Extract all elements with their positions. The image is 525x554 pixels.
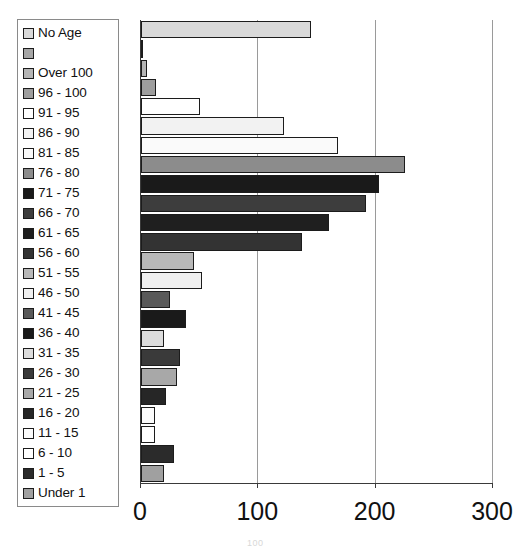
legend-item-label: 61 - 65 [38, 223, 79, 243]
legend-item[interactable]: 26 - 30 [23, 363, 115, 383]
legend-item[interactable]: 36 - 40 [23, 323, 115, 343]
legend-item[interactable]: 51 - 55 [23, 263, 115, 283]
bar[interactable] [141, 291, 170, 308]
legend-item-label: 1 - 5 [38, 463, 65, 483]
bar[interactable] [141, 233, 302, 250]
legend-item[interactable]: 6 - 10 [23, 443, 115, 463]
bar[interactable] [141, 368, 177, 385]
legend-swatch-icon [23, 408, 34, 419]
legend-item-label: 31 - 35 [38, 343, 79, 363]
legend-item-label: 96 - 100 [38, 83, 87, 103]
bar[interactable] [141, 272, 202, 289]
legend-swatch-icon [23, 468, 34, 479]
legend-item-label: 36 - 40 [38, 323, 79, 343]
bar-series [140, 20, 492, 483]
legend-item[interactable]: 61 - 65 [23, 223, 115, 243]
legend-swatch-icon [23, 248, 34, 259]
bar[interactable] [141, 156, 405, 173]
legend-item[interactable]: Over 100 [23, 63, 115, 83]
legend-item[interactable]: 11 - 15 [23, 423, 115, 443]
bar[interactable] [141, 117, 284, 134]
legend-swatch-icon [23, 108, 34, 119]
bar[interactable] [141, 195, 366, 212]
bar[interactable] [141, 426, 155, 443]
bar-chart: No AgeOver 10096 - 10091 - 9586 - 9081 -… [0, 0, 525, 554]
legend-item[interactable]: 66 - 70 [23, 203, 115, 223]
legend-item[interactable]: 41 - 45 [23, 303, 115, 323]
bar[interactable] [141, 310, 186, 327]
legend-item[interactable]: 86 - 90 [23, 123, 115, 143]
legend-item[interactable]: 16 - 20 [23, 403, 115, 423]
legend-swatch-icon [23, 388, 34, 399]
legend-item[interactable]: 1 - 5 [23, 463, 115, 483]
plot-area [140, 20, 492, 483]
legend-swatch-icon [23, 188, 34, 199]
legend-item[interactable]: 96 - 100 [23, 83, 115, 103]
bar[interactable] [141, 60, 147, 77]
x-axis-tick-label: 100 [236, 497, 278, 526]
bar[interactable] [141, 79, 156, 96]
legend-item-label: 51 - 55 [38, 263, 79, 283]
bar[interactable] [141, 175, 379, 192]
x-axis-tick-label: 300 [471, 497, 513, 526]
legend-swatch-icon [23, 88, 34, 99]
legend-swatch-icon [23, 268, 34, 279]
bar[interactable] [141, 252, 194, 269]
x-axis-tick-label: 200 [354, 497, 396, 526]
legend-swatch-icon [23, 128, 34, 139]
legend-item[interactable]: 56 - 60 [23, 243, 115, 263]
bar[interactable] [141, 388, 166, 405]
legend-item-label: 11 - 15 [38, 423, 78, 443]
legend-swatch-icon [23, 328, 34, 339]
legend-swatch-icon [23, 148, 34, 159]
bar[interactable] [141, 40, 143, 57]
legend-swatch-icon [23, 68, 34, 79]
x-axis-tick [257, 483, 258, 488]
x-axis-tick [492, 483, 493, 488]
legend-item[interactable]: 81 - 85 [23, 143, 115, 163]
legend-item[interactable]: 91 - 95 [23, 103, 115, 123]
legend-item-label: No Age [38, 23, 82, 43]
legend: No AgeOver 10096 - 10091 - 9586 - 9081 -… [17, 19, 119, 507]
legend-item[interactable]: No Age [23, 23, 115, 43]
legend-swatch-icon [23, 308, 34, 319]
legend-item-label: 81 - 85 [38, 143, 79, 163]
legend-swatch-icon [23, 428, 34, 439]
bar[interactable] [141, 349, 180, 366]
bar[interactable] [141, 214, 329, 231]
legend-swatch-icon [23, 448, 34, 459]
legend-item-label: 86 - 90 [38, 123, 79, 143]
legend-item[interactable] [23, 43, 115, 63]
bar[interactable] [141, 407, 155, 424]
bar[interactable] [141, 330, 164, 347]
legend-item[interactable]: 21 - 25 [23, 383, 115, 403]
legend-item-label: 41 - 45 [38, 303, 79, 323]
legend-item[interactable]: 71 - 75 [23, 183, 115, 203]
x-axis-labels: 0100200300 [0, 497, 525, 529]
bar[interactable] [141, 21, 311, 38]
legend-swatch-icon [23, 348, 34, 359]
legend-item[interactable]: 31 - 35 [23, 343, 115, 363]
legend-swatch-icon [23, 168, 34, 179]
bar[interactable] [141, 445, 174, 462]
legend-item-label: 76 - 80 [38, 163, 79, 183]
legend-item-label: 91 - 95 [38, 103, 79, 123]
legend-item-label: 46 - 50 [38, 283, 79, 303]
bar[interactable] [141, 465, 164, 482]
legend-item-label: 26 - 30 [38, 363, 79, 383]
legend-item-label: 56 - 60 [38, 243, 79, 263]
legend-item-label: 21 - 25 [38, 383, 79, 403]
x-axis-tick-label: 0 [133, 497, 147, 526]
x-axis-line [140, 483, 492, 484]
legend-swatch-icon [23, 228, 34, 239]
gridline [492, 20, 493, 483]
legend-item[interactable]: 76 - 80 [23, 163, 115, 183]
bar[interactable] [141, 137, 338, 154]
legend-swatch-icon [23, 48, 34, 59]
x-axis-tick [375, 483, 376, 488]
legend-swatch-icon [23, 288, 34, 299]
legend-item[interactable]: 46 - 50 [23, 283, 115, 303]
legend-item-label: Over 100 [38, 63, 93, 83]
legend-item-label: 16 - 20 [38, 403, 79, 423]
bar[interactable] [141, 98, 200, 115]
